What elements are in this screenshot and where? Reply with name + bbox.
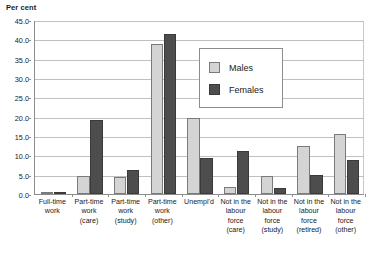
x-category-label-line: (care): [217, 226, 254, 235]
y-tick-label: 15.0: [15, 133, 29, 142]
x-tick-mark: [292, 194, 293, 197]
y-tick-mark: [28, 118, 31, 119]
bar-males: [187, 118, 200, 194]
y-tick-label: 25.0: [15, 94, 29, 103]
bar-group: [328, 21, 365, 194]
x-category-label: Part-timework(care): [71, 198, 108, 226]
x-category-label: Not in thelabourforce(retired): [291, 198, 328, 236]
x-category-label-line: force: [254, 217, 291, 226]
x-category-label-line: labour: [254, 207, 291, 216]
x-category-label-line: (retired): [291, 226, 328, 235]
x-category-label-line: labour: [217, 207, 254, 216]
x-category-label-line: (care): [71, 217, 108, 226]
legend-swatch-males-icon: [209, 62, 220, 73]
y-tick-label: 45.0: [15, 17, 29, 26]
x-category-label: Not in thelabourforce(other): [327, 198, 364, 236]
bar-males: [151, 44, 164, 194]
x-category-label-line: work: [144, 207, 181, 216]
chart-legend: Males Females: [199, 48, 283, 108]
y-tick-mark: [28, 176, 31, 177]
x-category-label-line: (study): [254, 226, 291, 235]
bar-females: [347, 160, 360, 194]
y-tick-mark: [28, 40, 31, 41]
x-category-label-line: work: [34, 207, 71, 216]
bar-group: [145, 21, 182, 194]
x-category-label-line: Full-time: [34, 198, 71, 207]
x-tick-mark: [255, 194, 256, 197]
bar-females: [310, 175, 323, 194]
bar-chart: Per cent 0.05.010.015.020.025.030.035.04…: [0, 0, 374, 253]
x-tick-mark: [218, 194, 219, 197]
y-tick-mark: [28, 195, 31, 196]
bar-females: [237, 151, 250, 194]
y-tick-label: 35.0: [15, 55, 29, 64]
bar-males: [261, 176, 274, 194]
x-category-label-line: force: [291, 217, 328, 226]
bar-females: [164, 34, 177, 194]
legend-swatch-females-icon: [209, 84, 220, 95]
x-category-label-line: work: [71, 207, 108, 216]
bar-group: [292, 21, 329, 194]
x-category-label: Part-timework(other): [144, 198, 181, 226]
bar-males: [114, 177, 127, 194]
bar-group: [108, 21, 145, 194]
bar-males: [77, 176, 90, 194]
y-tick-mark: [28, 98, 31, 99]
x-tick-mark: [145, 194, 146, 197]
x-tick-mark: [182, 194, 183, 197]
y-tick-mark: [28, 137, 31, 138]
bar-males: [334, 134, 347, 194]
bar-males: [41, 192, 54, 194]
bar-group: [72, 21, 109, 194]
x-category-label-line: Not in the: [327, 198, 364, 207]
x-tick-mark: [108, 194, 109, 197]
x-category-label-line: Not in the: [254, 198, 291, 207]
x-category-label-line: Part-time: [144, 198, 181, 207]
x-category-label-line: labour: [291, 207, 328, 216]
bar-group: [35, 21, 72, 194]
x-category-label-line: work: [107, 207, 144, 216]
x-axis-category-labels: Full-timeworkPart-timework(care)Part-tim…: [34, 198, 364, 252]
y-tick-label: 40.0: [15, 36, 29, 45]
x-category-label-line: (other): [144, 217, 181, 226]
y-axis-tick-labels: 0.05.010.015.020.025.030.035.040.045.0: [0, 21, 31, 195]
legend-label-males: Males: [229, 63, 253, 73]
legend-item-males: Males: [209, 62, 253, 73]
x-category-label-line: labour: [327, 207, 364, 216]
x-category-label: Not in thelabourforce(study): [254, 198, 291, 236]
y-tick-mark: [28, 79, 31, 80]
legend-label-females: Females: [229, 85, 264, 95]
y-tick-label: 30.0: [15, 75, 29, 84]
x-category-label-line: (other): [327, 226, 364, 235]
bar-females: [200, 158, 213, 194]
x-category-label-line: Unempl'd: [181, 198, 218, 207]
x-category-label: Full-timework: [34, 198, 71, 217]
bar-females: [274, 188, 287, 194]
x-tick-mark: [365, 194, 366, 197]
bar-males: [297, 146, 310, 194]
x-category-label-line: Part-time: [71, 198, 108, 207]
x-category-label-line: Not in the: [291, 198, 328, 207]
x-category-label: Not in thelabourforce(care): [217, 198, 254, 236]
x-category-label: Unempl'd: [181, 198, 218, 207]
y-tick-mark: [28, 156, 31, 157]
bar-females: [54, 192, 67, 194]
x-tick-mark: [328, 194, 329, 197]
y-tick-label: 20.0: [15, 113, 29, 122]
bar-males: [224, 187, 237, 194]
y-axis-title: Per cent: [6, 3, 36, 12]
legend-item-females: Females: [209, 84, 264, 95]
x-category-label: Part-timework(study): [107, 198, 144, 226]
y-tick-label: 10.0: [15, 152, 29, 161]
x-category-label-line: Part-time: [107, 198, 144, 207]
bar-females: [90, 120, 103, 194]
x-category-label-line: force: [327, 217, 364, 226]
x-category-label-line: (study): [107, 217, 144, 226]
y-tick-mark: [28, 60, 31, 61]
bar-females: [127, 170, 140, 194]
y-tick-mark: [28, 21, 31, 22]
x-category-label-line: force: [217, 217, 254, 226]
x-tick-mark: [72, 194, 73, 197]
x-category-label-line: Not in the: [217, 198, 254, 207]
